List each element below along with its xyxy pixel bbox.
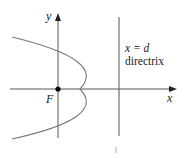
x-axis-label: x (166, 91, 173, 105)
focus-label: F (45, 92, 54, 106)
directrix-label: directrix (125, 55, 164, 67)
y-axis-label: y (45, 9, 52, 23)
parabola-diagram: y x F x = d directrix (0, 0, 188, 158)
focus-point (55, 86, 60, 91)
directrix-equation: x = d (124, 42, 150, 54)
x-axis (10, 86, 177, 92)
y-axis-arrow-icon (55, 13, 61, 21)
y-axis (55, 13, 61, 138)
parabola-curve (12, 37, 86, 139)
